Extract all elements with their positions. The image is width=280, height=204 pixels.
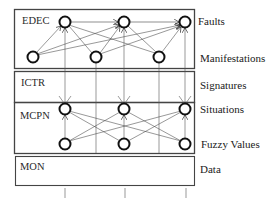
manifestation-fault-links [36, 25, 181, 55]
fuzzy-value-node [180, 139, 191, 150]
layer-label-mon: MON [20, 161, 45, 172]
layer-label-ictr: ICTR [21, 77, 45, 88]
layer-label-edec: EDEC [22, 15, 49, 26]
fault-node [180, 17, 191, 28]
side-label-data: Data [200, 163, 221, 175]
layer-label-mcpn: MCPN [20, 110, 50, 121]
manifestation-node [91, 52, 102, 63]
fault-node [119, 17, 130, 28]
fuzzy-value-nodes [60, 139, 191, 150]
fuzzy-value-node [60, 139, 71, 150]
side-label-fuzzy-values: Fuzzy Values [201, 138, 260, 150]
fuzzy-value-node [119, 139, 130, 150]
side-label-situations: Situations [200, 103, 244, 115]
fault-node [60, 17, 71, 28]
manifestation-node [154, 52, 165, 63]
manifestation-node [28, 52, 39, 63]
side-label-manifestations: Manifestations [200, 52, 265, 64]
situation-node [180, 104, 191, 115]
manifestation-nodes [28, 52, 165, 63]
situation-fuzzy-links [69, 111, 181, 141]
side-label-signatures: Signatures [200, 79, 246, 91]
architecture-diagram: EDEC ICTR MCPN MON Faults Manifestations… [0, 0, 280, 204]
side-label-faults: Faults [198, 15, 225, 27]
situation-node [60, 104, 71, 115]
situation-node [119, 104, 130, 115]
situation-nodes [60, 104, 191, 115]
